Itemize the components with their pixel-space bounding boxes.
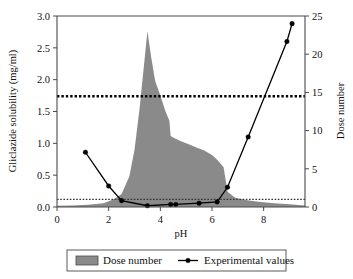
left-tick-label: 2.5 xyxy=(37,43,50,54)
bottom-tick-label: 8 xyxy=(261,214,266,225)
bottom-axis-ticks: 02468 xyxy=(54,207,266,225)
right-tick-label: 15 xyxy=(312,87,323,98)
data-point xyxy=(174,202,179,207)
data-point xyxy=(106,184,111,189)
legend-label-dose-number: Dose number xyxy=(103,254,162,266)
legend-label-experimental-values: Experimental values xyxy=(204,254,294,266)
right-tick-label: 5 xyxy=(312,164,317,175)
legend-swatch-dose-number xyxy=(76,256,98,265)
data-point xyxy=(285,39,290,44)
left-tick-label: 1.5 xyxy=(37,106,50,117)
right-tick-label: 25 xyxy=(312,11,323,22)
solubility-dose-chart: 0.00.51.01.52.02.53.0 0510152025 02468 G… xyxy=(0,0,353,279)
bottom-tick-label: 2 xyxy=(106,214,111,225)
data-point xyxy=(197,201,202,206)
data-point xyxy=(225,185,230,190)
data-point xyxy=(246,135,251,140)
left-tick-label: 3.0 xyxy=(37,11,50,22)
left-tick-label: 2.0 xyxy=(37,74,50,85)
left-tick-label: 0.5 xyxy=(37,170,50,181)
data-point xyxy=(168,202,173,207)
legend: Dose number Experimental values xyxy=(67,250,294,271)
right-tick-label: 10 xyxy=(312,125,323,136)
bottom-tick-label: 0 xyxy=(54,214,59,225)
left-tick-label: 0.0 xyxy=(37,202,50,213)
left-axis-ticks: 0.00.51.01.52.02.53.0 xyxy=(37,11,57,213)
left-tick-label: 1.0 xyxy=(37,138,50,149)
figure-container: 0.00.51.01.52.02.53.0 0510152025 02468 G… xyxy=(0,0,353,279)
x-axis-title: pH xyxy=(175,228,188,239)
data-point xyxy=(83,150,88,155)
right-axis-ticks: 0510152025 xyxy=(305,11,323,213)
y2-axis-title: Dose number xyxy=(335,82,346,139)
bottom-tick-label: 4 xyxy=(158,214,164,225)
y-axis-title: Gliclazide solubility (mg/ml) xyxy=(7,49,19,172)
legend-marker-experimental-values xyxy=(186,258,191,263)
right-tick-label: 20 xyxy=(312,49,323,60)
right-tick-label: 0 xyxy=(312,202,317,213)
data-point xyxy=(119,198,124,203)
data-point xyxy=(290,21,295,26)
data-point xyxy=(215,200,220,205)
bottom-tick-label: 6 xyxy=(209,214,214,225)
